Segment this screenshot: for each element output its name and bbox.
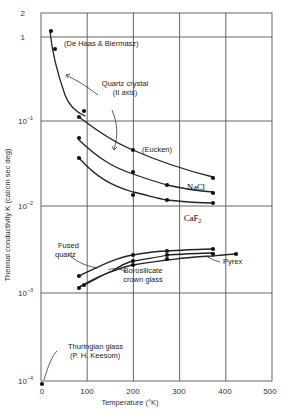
label-boro-2: crown glass <box>123 275 163 284</box>
label-nacl: NaCl <box>187 182 206 192</box>
label-fused-1: Fused <box>58 241 79 250</box>
svg-text:1: 1 <box>21 33 26 42</box>
svg-text:0: 0 <box>40 387 45 396</box>
annotation-leaders <box>44 74 220 380</box>
x-tick-labels: 0 100 200 300 400 500 <box>40 387 277 396</box>
label-dehaas: (De Haas & Biermasz) <box>64 39 139 48</box>
plot-frame <box>41 13 272 381</box>
label-fused-2: quartz <box>55 250 76 259</box>
y-tick-1e-4: 10−4 <box>18 375 33 386</box>
label-boro-1: Borosilicate <box>124 266 163 275</box>
y-axis-title: Thermal conductivity K (cal/cm sec deg) <box>3 148 12 281</box>
plot-grid <box>41 13 272 381</box>
y-tick-1e-2: 10−2 <box>18 200 33 211</box>
x-axis-title: Temperature (°K) <box>101 398 159 407</box>
curve-caf2 <box>79 158 213 203</box>
svg-text:300: 300 <box>172 387 186 396</box>
label-thur-1: Thuringian glass <box>68 342 123 351</box>
y-tick-1e-1: 10−1 <box>18 115 33 126</box>
label-quartz-2: (II axis) <box>113 88 138 97</box>
thermal-conductivity-chart: 2 1 10−1 10−2 10−3 10−4 0 100 200 300 40… <box>0 0 281 414</box>
label-thur-2: (P. H. Keesom) <box>70 351 121 360</box>
label-pyrex: Pyrex <box>223 257 242 266</box>
label-quartz-1: Quartz crystal <box>102 79 149 88</box>
label-caf2: CaF2 <box>184 213 201 224</box>
svg-text:500: 500 <box>263 387 277 396</box>
svg-text:2: 2 <box>21 9 26 18</box>
svg-text:200: 200 <box>126 387 140 396</box>
svg-text:100: 100 <box>80 387 94 396</box>
svg-text:400: 400 <box>218 387 232 396</box>
label-eucken: (Eucken) <box>142 145 173 154</box>
y-tick-labels: 2 1 10−1 10−2 10−3 10−4 <box>18 9 33 386</box>
y-tick-1e-3: 10−3 <box>18 287 33 298</box>
series-labels: (De Haas & Biermasz) Quartz crystal (II … <box>55 39 242 360</box>
